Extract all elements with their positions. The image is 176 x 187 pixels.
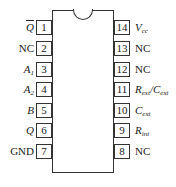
pin-8: 8 bbox=[114, 144, 130, 159]
pin-5: 5 bbox=[36, 103, 52, 118]
ic-body bbox=[52, 10, 114, 173]
pin-13-label: NC bbox=[135, 41, 150, 56]
pin-9: 9 bbox=[114, 123, 130, 138]
pin-12-label: NC bbox=[135, 62, 150, 77]
pin-10: 10 bbox=[114, 103, 130, 118]
pin-8-label: NC bbox=[135, 144, 150, 159]
pin-1-label: Q bbox=[26, 20, 34, 35]
pin-13: 13 bbox=[114, 41, 130, 56]
pin-10-label: Cext bbox=[135, 103, 151, 122]
pin-1: 1 bbox=[36, 20, 52, 35]
pin-6: 6 bbox=[36, 123, 52, 138]
pin-14: 14 bbox=[114, 20, 130, 35]
pin-5-label: B bbox=[27, 103, 34, 118]
pin-12: 12 bbox=[114, 62, 130, 77]
pin-7-label: GND bbox=[10, 144, 34, 159]
pin-2: 2 bbox=[36, 41, 52, 56]
pin-11-label: Rext/Cext bbox=[135, 82, 168, 101]
pin-2-label: NC bbox=[19, 41, 34, 56]
pin-3-label: A1 bbox=[24, 62, 34, 81]
pin-6-label: Q bbox=[26, 123, 34, 138]
pin-3: 3 bbox=[36, 62, 52, 77]
pin-4: 4 bbox=[36, 82, 52, 97]
pin-14-label: Vcc bbox=[135, 20, 148, 39]
pin-11: 11 bbox=[114, 82, 130, 97]
pin-9-label: Rint bbox=[135, 123, 149, 142]
pin-4-label: A2 bbox=[24, 82, 34, 101]
pin-7: 7 bbox=[36, 144, 52, 159]
